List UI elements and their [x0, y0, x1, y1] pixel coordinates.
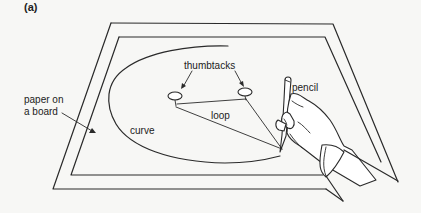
- loop-label: loop: [211, 110, 230, 121]
- panel-label: (a): [24, 2, 37, 13]
- thumbtacks-label: thumbtacks: [184, 60, 235, 71]
- pencil-label: pencil: [292, 82, 318, 93]
- string-loop: [176, 99, 282, 149]
- curve-label: curve: [130, 125, 154, 136]
- ellipse-drawing-diagram: (a) paper on a board thumbtacks pencil c…: [0, 0, 421, 213]
- diagram-graphic: [0, 0, 421, 213]
- thumbtack-right: [238, 88, 252, 100]
- paper-label-line2: a board: [24, 106, 58, 117]
- thumbtacks-arrows: [181, 71, 244, 89]
- hand-icon: [276, 94, 398, 201]
- paper-label-line1: paper on: [24, 94, 63, 105]
